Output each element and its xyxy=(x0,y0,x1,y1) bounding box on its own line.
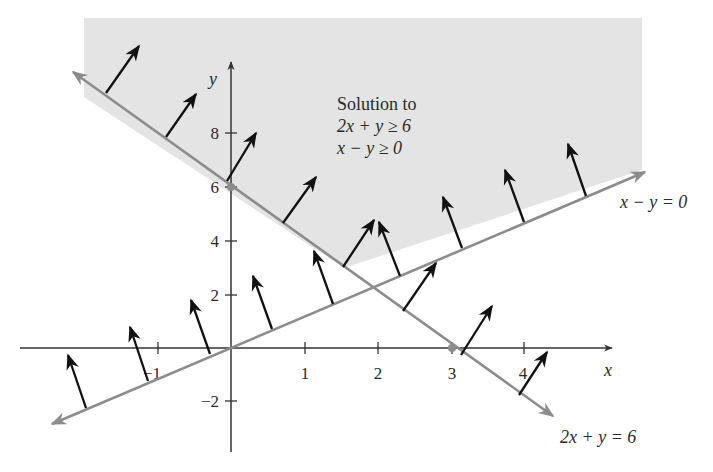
y-tick-label: 8 xyxy=(211,124,220,143)
x-tick-label: 2 xyxy=(374,364,383,383)
point-3-0 xyxy=(448,344,456,352)
y-tick-label: −2 xyxy=(201,392,219,411)
x-tick-label: 3 xyxy=(448,364,457,383)
y-tick-label: 6 xyxy=(211,178,220,197)
y-tick-label: 2 xyxy=(211,286,220,305)
line-label-x-minus-y: x − y = 0 xyxy=(619,192,687,212)
line-label-2x-plus-y: 2x + y = 6 xyxy=(560,427,636,447)
x-tick-label: 1 xyxy=(301,364,310,383)
x-axis-label: x xyxy=(603,360,612,380)
point-0-6 xyxy=(227,183,235,191)
y-axis-label: y xyxy=(207,69,217,89)
x-tick-label: 4 xyxy=(519,364,528,383)
inequality-1: 2x + y ≥ 6 xyxy=(337,116,411,136)
inequality-graph: −1 1 2 3 4 8 6 4 2 −2 x y Solution to xyxy=(0,0,713,472)
inequality-2: x − y ≥ 0 xyxy=(336,138,402,158)
solution-title: Solution to xyxy=(337,94,417,114)
y-tick-label: 4 xyxy=(211,232,220,251)
